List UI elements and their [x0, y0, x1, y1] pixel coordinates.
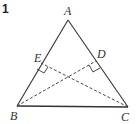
- label-e: E: [33, 51, 42, 65]
- label-b: B: [10, 109, 18, 123]
- side-bc: [17, 106, 128, 107]
- label-d: D: [96, 47, 106, 61]
- side-ac: [68, 20, 128, 107]
- triangle-diagram: 1 A B C D E: [0, 0, 137, 124]
- problem-number: 1: [2, 2, 9, 16]
- right-angle-marker-d: [89, 65, 100, 72]
- altitude-bd: [17, 61, 96, 106]
- right-angle-marker-e: [37, 67, 48, 73]
- label-a: A: [63, 4, 72, 18]
- label-c: C: [121, 110, 130, 124]
- side-ab: [17, 20, 68, 106]
